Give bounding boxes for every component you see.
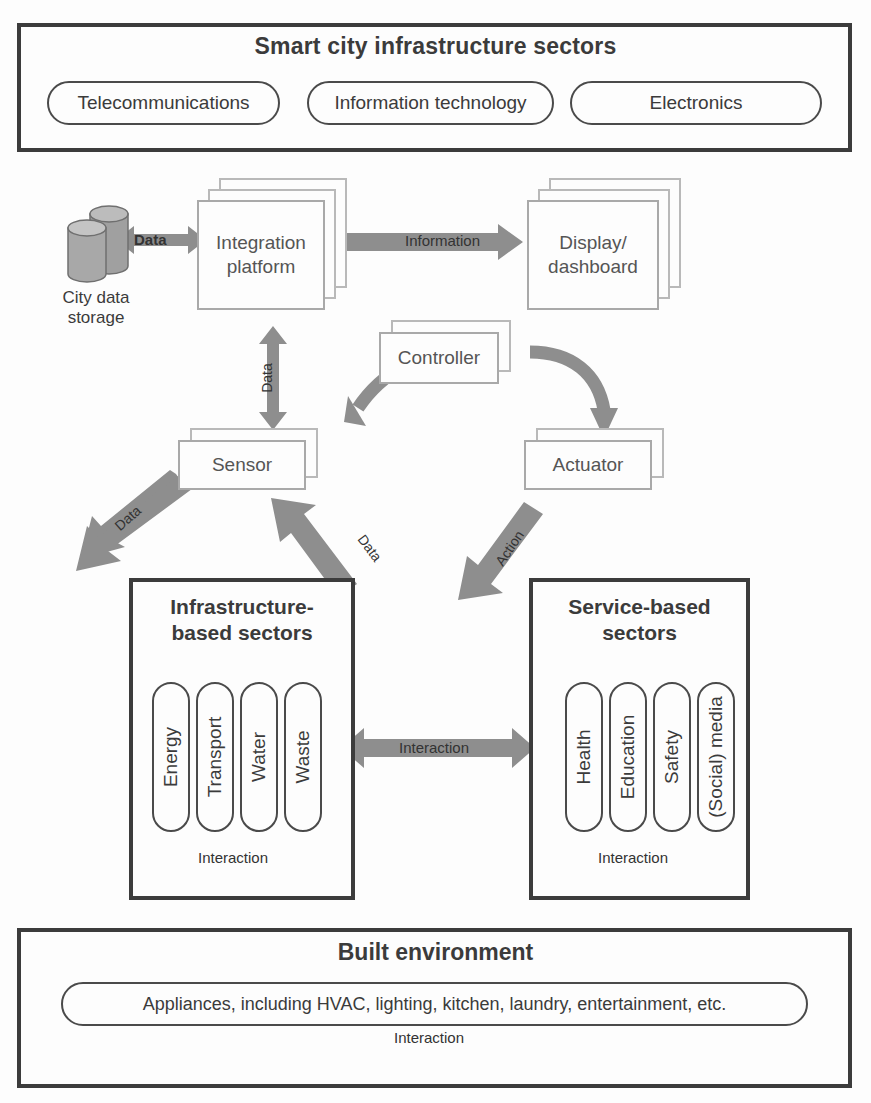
node-label-line1: Display/ (548, 231, 638, 255)
node-card: Integration platform (197, 200, 325, 310)
node-display-dashboard[interactable]: Display/ dashboard (527, 178, 692, 323)
infrastructure-sectors-title: Infrastructure- based sectors (129, 594, 355, 647)
connector-platform-sensor-arrow (259, 326, 287, 430)
city-data-storage-group: City data storage (36, 196, 156, 326)
diagram-canvas: Smart city infrastructure sectors Teleco… (0, 0, 871, 1103)
appliances-label: Appliances, including HVAC, lighting, ki… (143, 994, 727, 1015)
item-label: Health (573, 730, 595, 785)
title-line1: Service-based (529, 594, 750, 620)
node-label-line2: dashboard (548, 255, 638, 279)
service-item-social-media[interactable]: (Social) media (697, 682, 735, 832)
infrastructure-item-water[interactable]: Water (240, 682, 278, 832)
node-integration-platform[interactable]: Integration platform (197, 178, 352, 323)
database-cylinders-icon (46, 196, 166, 288)
title-line1: Infrastructure- (129, 594, 355, 620)
item-label: Education (617, 715, 639, 800)
node-controller[interactable]: Controller (379, 320, 519, 392)
built-environment-title: Built environment (0, 939, 871, 966)
item-label: Energy (160, 727, 182, 787)
node-label-line1: Integration (216, 231, 306, 255)
item-label: Waste (292, 730, 314, 783)
city-data-storage-label-line2: storage (36, 308, 156, 328)
node-label-line2: platform (216, 255, 306, 279)
interaction-arrow-between-panels (341, 728, 535, 768)
service-sectors-title: Service-based sectors (529, 594, 750, 647)
item-label: (Social) media (705, 696, 727, 817)
service-item-education[interactable]: Education (609, 682, 647, 832)
connector-controller-actuator-arrow (530, 352, 618, 438)
node-label: Actuator (553, 453, 624, 477)
city-data-storage-label-line1: City data (36, 288, 156, 308)
node-actuator[interactable]: Actuator (524, 428, 679, 498)
node-card: Display/ dashboard (527, 200, 659, 310)
item-label: Transport (204, 717, 226, 798)
node-label: Controller (398, 346, 480, 370)
node-label: Sensor (212, 453, 272, 477)
node-sensor[interactable]: Sensor (178, 428, 333, 498)
infrastructure-item-energy[interactable]: Energy (152, 682, 190, 832)
node-card: Actuator (524, 440, 652, 490)
service-item-safety[interactable]: Safety (653, 682, 691, 832)
item-label: Water (248, 732, 270, 782)
title-line2: sectors (529, 620, 750, 646)
connector-platform-display-arrow (347, 224, 523, 260)
item-label: Safety (661, 730, 683, 784)
node-card: Controller (379, 332, 499, 384)
node-card: Sensor (178, 440, 306, 490)
built-environment-appliances-pill[interactable]: Appliances, including HVAC, lighting, ki… (61, 982, 808, 1026)
infrastructure-item-transport[interactable]: Transport (196, 682, 234, 832)
title-line2: based sectors (129, 620, 355, 646)
service-item-health[interactable]: Health (565, 682, 603, 832)
infrastructure-item-waste[interactable]: Waste (284, 682, 322, 832)
